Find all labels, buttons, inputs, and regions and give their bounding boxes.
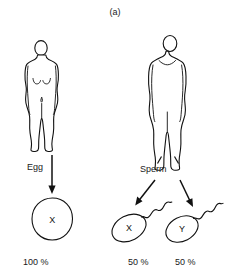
sperm-y-arrow	[180, 180, 193, 207]
egg-arrow-head	[48, 186, 55, 195]
female-head	[35, 41, 47, 56]
sperm-y-cell: Y	[161, 203, 223, 247]
sperm-x-percent-label: 50 %	[128, 258, 149, 267]
sperm-x-cell: X	[107, 202, 172, 247]
male-head	[163, 36, 177, 52]
sperm-y-arrow-head	[186, 198, 193, 207]
sperm-x-arrow	[135, 180, 155, 206]
egg-cell: X	[32, 198, 73, 240]
egg-arrow	[48, 155, 55, 194]
egg-chromosome-label: X	[49, 215, 55, 225]
sex-determination-diagram: (a)	[0, 0, 230, 277]
sperm-gamete-label: Sperm	[140, 165, 167, 174]
egg-gamete-label: Egg	[27, 163, 43, 172]
sperm-x-tail	[142, 202, 172, 218]
diagram-canvas: X X Y	[0, 0, 230, 277]
sperm-y-chromosome-label: Y	[179, 224, 185, 234]
sperm-y-tail	[194, 203, 223, 219]
male-body-outline	[149, 51, 187, 170]
male-parent-figure	[149, 36, 187, 171]
sperm-y-percent-label: 50 %	[175, 258, 196, 267]
female-parent-figure	[25, 41, 58, 152]
sperm-x-chromosome-label: X	[126, 223, 132, 233]
egg-percent-label: 100 %	[23, 258, 49, 267]
